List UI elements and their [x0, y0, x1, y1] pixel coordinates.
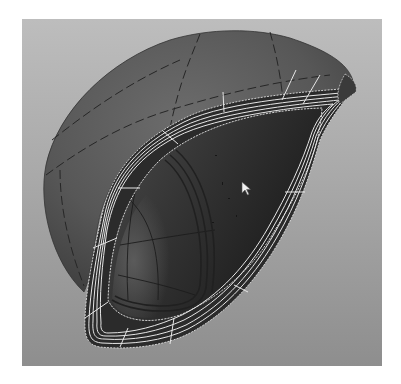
- scene-render[interactable]: [0, 0, 401, 384]
- arrow-pointer-icon: [241, 181, 253, 197]
